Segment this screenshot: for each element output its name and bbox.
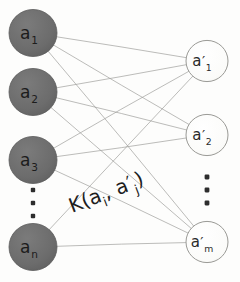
node-a2: a2 <box>9 68 57 115</box>
node-a1p: a′1 <box>186 40 228 81</box>
ellipsis-dot <box>205 188 210 193</box>
node-a2p: a′2 <box>186 114 228 155</box>
node-an: an <box>9 223 57 270</box>
ellipsis-dot <box>31 188 35 192</box>
ellipsis-dot <box>31 201 35 205</box>
node-amp: a′m <box>186 221 228 262</box>
node-a3: a3 <box>9 136 57 183</box>
kernel-diagram: a1a2a3ana′1a′2a′m K(ai, a′j) <box>0 0 240 282</box>
node-circle <box>9 223 57 270</box>
ellipsis-dot <box>205 201 210 206</box>
node-circle <box>9 68 57 115</box>
ellipsis-dot <box>205 175 210 180</box>
node-a1: a1 <box>9 9 57 56</box>
node-circle <box>186 114 228 155</box>
diagram-canvas: a1a2a3ana′1a′2a′m K(ai, a′j) <box>0 0 240 282</box>
node-circle <box>186 221 228 262</box>
right-column-ellipsis <box>205 175 210 206</box>
node-circle <box>9 136 57 183</box>
node-circle <box>186 40 228 81</box>
node-circle <box>9 9 57 56</box>
ellipsis-dot <box>31 214 35 218</box>
